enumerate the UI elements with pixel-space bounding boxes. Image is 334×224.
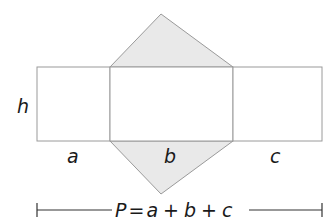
formula-b: b (184, 199, 196, 221)
formula-eq: = (128, 199, 144, 221)
formula-plus-2: + (201, 199, 217, 221)
face-rect-a (37, 67, 110, 141)
height-label: h (17, 95, 29, 117)
perimeter-formula: P=a+b+c (115, 199, 233, 221)
top-triangle-base (110, 14, 233, 67)
face-rect-c (233, 67, 322, 141)
face-rect-b (110, 67, 233, 141)
side-label-c: c (270, 145, 281, 167)
side-label-a: a (67, 145, 79, 167)
formula-plus-1: + (163, 199, 179, 221)
formula-a: a (146, 199, 158, 221)
side-label-b: b (164, 145, 176, 167)
formula-c: c (222, 199, 233, 221)
formula-P: P (115, 199, 127, 221)
prism-net-diagram: h a b c P=a+b+c (0, 0, 334, 224)
